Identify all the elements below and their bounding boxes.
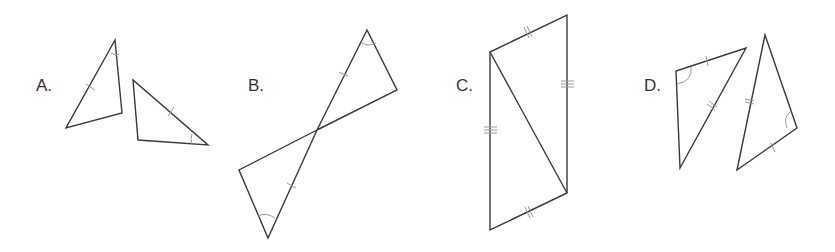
- figure-d-tick-right-side-1: [745, 99, 754, 101]
- figure-a-angle-right: [191, 134, 192, 144]
- figure-d-angle-right: [786, 112, 790, 128]
- figure-b-tick-upper: [339, 72, 348, 76]
- figure-b-lower-triangle: [239, 130, 317, 238]
- figure-b: [239, 30, 397, 238]
- figure-d: [676, 35, 797, 170]
- figure-a-triangle-left: [66, 40, 122, 128]
- figure-b-upper-triangle: [317, 30, 397, 130]
- figure-c: [484, 15, 574, 230]
- figure-d-triangle-left: [676, 48, 746, 168]
- figure-a: [66, 40, 208, 145]
- figure-b-angle-lower: [258, 214, 275, 218]
- figure-c-diagonal: [490, 52, 567, 193]
- geometry-diagram: [0, 0, 835, 252]
- figure-a-angle-left: [111, 53, 119, 55]
- figure-d-tick-right-side-2: [745, 102, 754, 104]
